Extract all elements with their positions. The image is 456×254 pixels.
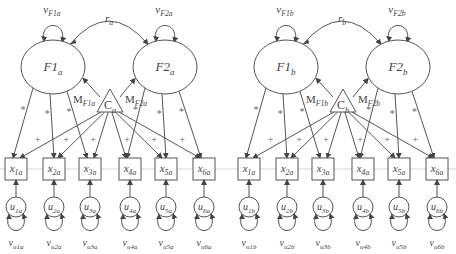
uniqueness-label-subscript: 3b [321,207,330,215]
uniqueness-variance-label-subscript: u4b [360,243,371,251]
method-factor-label-base: C [337,98,345,112]
latent-factor-label-subscript: b [291,67,296,77]
method-loading-marker: + [296,134,302,145]
factor-variance-label: vF2a [155,3,172,18]
latent-factor-label-subscript: a [170,67,175,77]
method-loading-marker: + [323,134,329,145]
method-path-label-f1-subscript: F1a [82,99,96,108]
method-path-label-f2-subscript: F2a [134,99,148,108]
factor-variance-label-subscript: F1a [47,9,61,18]
uniqueness-variance-label: vu1b [242,237,257,251]
latent-factor-label-base: F2 [388,59,404,74]
method-loading-marker: + [124,134,130,145]
factor-loading-path [162,94,166,158]
panel-b: vF1bvF2brb******MF1bMF2b++++++F1bF2bCbx1… [238,3,448,251]
indicator-label-subscript: 4a [129,168,137,177]
uniqueness-label-subscript: 2a [53,207,61,215]
uniqueness-label-subscript: 6b [436,207,444,215]
factor-variance-label: vF1a [43,3,60,18]
sem-diagram: vF1avF2ara******MF1aMF2a++++++F1aF2aCax1… [0,0,456,254]
indicator-label-subscript: 1a [248,168,256,177]
method-loading-marker: + [412,134,418,145]
method-factor-label-subscript: b [345,106,349,115]
uniqueness-variance-label-subscript: u2b [284,243,295,251]
indicator-label-subscript: 5a [165,168,173,177]
uniqueness-variance-label: vu2a [47,237,62,251]
method-path-label-f1-subscript: F1b [315,99,329,108]
method-loading-marker: + [384,134,390,145]
uniqueness-variance-label: vu1a [9,237,24,251]
latent-factor-label-base: F2 [155,59,171,74]
uniqueness-variance-label-subscript: u3a [87,243,98,251]
correlation-label-subscript: a [109,18,113,27]
latent-factor-label-base: F1 [43,59,58,74]
correlation-label: rb [338,12,346,27]
indicator-label-subscript: 2a [53,168,61,177]
method-path-f1 [316,78,333,97]
method-loading-marker: + [151,134,157,145]
uniqueness-label-subscript: 2b [286,207,294,215]
method-loading-path [327,112,341,158]
loading-marker: * [179,106,184,117]
indicator-label-subscript: 3a [88,168,97,177]
method-path-label-f1-base: M [73,93,83,105]
factor-loading-path [13,88,33,158]
factor-variance-label-subscript: F2b [392,9,406,18]
uniqueness-variance-label: vu4a [123,237,138,251]
factor-loading-path [246,88,266,158]
uniqueness-variance-label: vu2b [280,237,295,251]
uniqueness-variance-label-subscript: u1a [13,243,24,251]
loading-marker: * [412,106,417,117]
method-path-f1 [83,78,100,97]
method-path-label-f2: MF2a [125,93,147,108]
uniqueness-variance-label: vu6a [197,237,212,251]
latent-factor-label-subscript: b [403,67,408,77]
loading-marker: * [390,108,395,119]
indicator-label-subscript: 4a [362,168,370,177]
factor-variance-label-subscript: F1b [280,9,294,18]
method-path-label-f1: MF1a [73,93,95,108]
loading-marker: * [157,108,162,119]
uniqueness-variance-label: vu3b [316,237,331,251]
factor-variance-label: vF1b [276,3,293,18]
method-loading-marker: + [268,134,274,145]
latent-factor-label-subscript: a [58,67,63,77]
loading-marker: * [67,106,72,117]
method-path-label-f2: MF2b [358,93,380,108]
factor-variance-label: vF2b [388,3,405,18]
indicator-label-subscript: 6a [203,168,211,177]
uniqueness-variance-label-subscript: u6a [201,243,212,251]
method-loading-path [253,112,334,158]
panel-a: vF1avF2ara******MF1aMF2a++++++F1aF2aCax1… [5,3,215,251]
factor-loading-path [395,94,399,158]
uniqueness-label-subscript: 4b [362,207,370,215]
method-factor-label-base: C [104,98,112,112]
method-loading-marker: + [63,134,69,145]
method-loading-path [94,112,108,158]
uniqueness-variance-label-subscript: u5a [163,243,174,251]
uniqueness-variance-label-subscript: u1b [246,243,257,251]
correlation-label: ra [105,12,113,27]
uniqueness-label-subscript: 1b [248,207,256,215]
method-path-label-f1: MF1b [306,93,328,108]
uniqueness-variance-label-subscript: u2a [51,243,62,251]
indicator-label-subscript: 6a [436,168,444,177]
indicator-label-subscript: 2a [286,168,294,177]
uniqueness-label-subscript: 1a [15,207,23,215]
uniqueness-variance-label: vu5b [392,237,407,251]
uniqueness-variance-label-subscript: u5b [396,243,407,251]
latent-factor-label-base: F1 [276,59,291,74]
method-loading-marker: + [90,134,96,145]
factor-loading-path [283,94,287,158]
factor-variance-label-subscript: F2a [159,9,173,18]
uniqueness-variance-label-subscript: u6b [434,243,445,251]
method-path-label-f2-base: M [125,93,135,105]
uniqueness-variance-label: vu5a [159,237,174,251]
loading-marker: * [21,104,26,115]
loading-marker: * [45,108,50,119]
uniqueness-variance-label: vu6b [430,237,445,251]
uniqueness-variance-label: vu4b [356,237,371,251]
method-loading-marker: + [357,134,363,145]
loading-marker: * [300,106,305,117]
indicator-label-subscript: 3a [321,168,330,177]
